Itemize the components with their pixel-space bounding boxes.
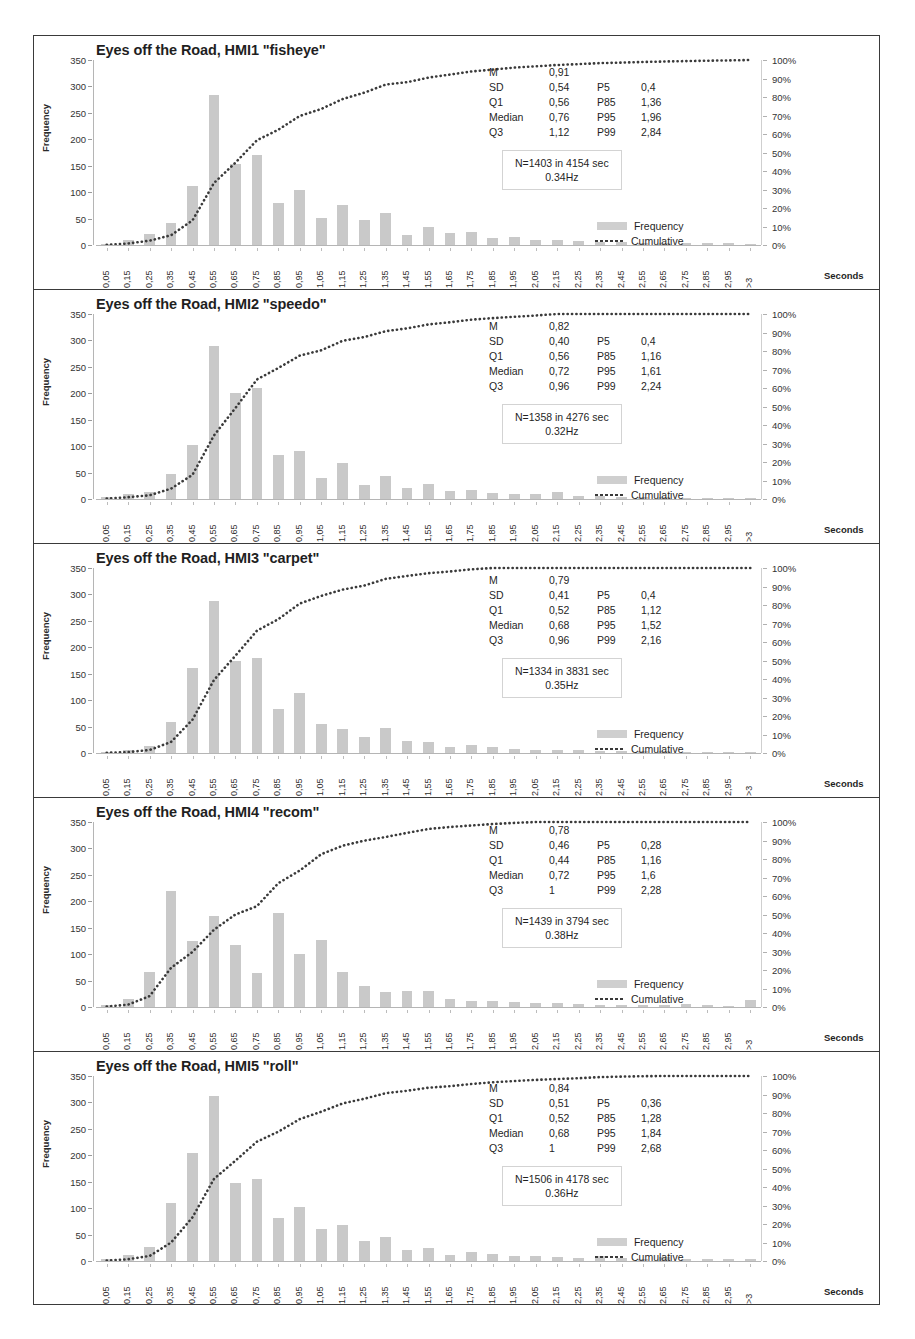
stat-label-q3: Q3 [489,126,535,138]
x-tick-label: 0,25 [144,778,154,796]
y-tick-right-label: 50% [772,1163,791,1174]
y-axis-right-line [761,60,762,245]
chart-panel-3: Eyes off the Road, HMI3 "carpet"05010015… [34,544,879,798]
y-tick-mark [88,1007,92,1008]
x-tick-mark [235,248,236,251]
stat-label-q3: Q3 [489,884,535,896]
y-tick-right-mark [763,735,767,736]
x-axis-labels: 0,050,150,250,350,450,550,650,750,850,95… [96,502,761,542]
x-tick-mark [471,1264,472,1267]
stat-label-p5: P5 [597,335,627,347]
stat-label-sd: SD [489,335,535,347]
x-tick-label: >3 [744,1294,754,1304]
y-tick-right-label: 40% [772,420,791,431]
x-tick-mark [707,1010,708,1013]
x-tick-mark [321,756,322,759]
x-tick-mark [171,1264,172,1267]
y-axis-left: 050100150200250300350 [34,314,94,499]
y-axis-title: Frequency [40,358,51,406]
x-tick-mark [579,248,580,251]
sample-size-line2: 0.35Hz [515,678,609,692]
y-tick-label: 350 [70,1071,86,1082]
x-tick-mark [278,502,279,505]
y-tick-mark [88,139,92,140]
x-tick-label: 1,75 [465,1032,475,1050]
stat-label-p95: P95 [597,111,627,123]
y-tick-label: 200 [70,134,86,145]
x-tick-label: 0,35 [165,1032,175,1050]
stats-table: M0,78SD0,46P50,28Q10,44P851,16Median0,72… [489,824,671,896]
stat-label-p5: P5 [597,839,627,851]
x-tick-mark [171,248,172,251]
x-tick-label: 0,75 [251,1032,261,1050]
y-tick-right-mark [763,933,767,934]
x-tick-label: 1,45 [401,1032,411,1050]
x-tick-mark [579,1010,580,1013]
x-tick-mark [514,756,515,759]
x-tick-mark [493,248,494,251]
x-tick-mark [407,1010,408,1013]
x-tick-label: 0,85 [272,1032,282,1050]
x-tick-label: 0,15 [122,1286,132,1304]
sample-size-line1: N=1334 in 3831 sec [515,664,609,678]
x-tick-mark [407,1264,408,1267]
x-tick-label: 0,55 [208,1286,218,1304]
x-tick-mark [321,1010,322,1013]
stat-label-sd: SD [489,589,535,601]
x-tick-mark [257,1264,258,1267]
y-tick-label: 250 [70,107,86,118]
x-tick-label: 0,15 [122,270,132,288]
stat-label-p_blank [597,320,627,332]
stat-value-q3: 0,96 [549,380,583,392]
x-tick-label: 2,25 [573,524,583,542]
x-tick-label: 2,55 [637,778,647,796]
x-tick-mark [257,756,258,759]
x-tick-mark [128,1010,129,1013]
legend-swatch-cumulative [594,995,624,1003]
stat-label-p_blank [597,1082,627,1094]
y-tick-right-mark [763,841,767,842]
x-tick-mark [214,1010,215,1013]
y-tick-mark [88,1182,92,1183]
x-tick-label: 2,15 [551,524,561,542]
x-tick-label: 1,25 [358,1286,368,1304]
x-tick-mark [128,502,129,505]
y-tick-right-label: 40% [772,1182,791,1193]
y-tick-right-label: 30% [772,946,791,957]
x-tick-mark [257,502,258,505]
y-tick-mark [88,727,92,728]
stat-value-p5: 0,4 [641,335,671,347]
y-tick-right-mark [763,333,767,334]
x-tick-label: 2,65 [658,524,668,542]
y-tick-mark [88,473,92,474]
y-tick-right-mark [763,1076,767,1077]
x-axis-labels: 0,050,150,250,350,450,550,650,750,850,95… [96,756,761,796]
x-tick-label: 0,65 [229,1032,239,1050]
x-tick-label: 2,65 [658,1032,668,1050]
y-axis-title: Frequency [40,612,51,660]
x-tick-label: 0,65 [229,270,239,288]
x-tick-label: 0,25 [144,1286,154,1304]
x-tick-mark [600,756,601,759]
legend-swatch-cumulative [594,237,624,245]
y-tick-right-mark [763,481,767,482]
x-tick-mark [750,756,751,759]
y-tick-mark [88,219,92,220]
y-tick-right-label: 40% [772,674,791,685]
x-tick-label: 0,05 [101,1286,111,1304]
x-tick-mark [643,248,644,251]
y-tick-mark [88,1076,92,1077]
x-tick-mark [729,756,730,759]
x-tick-label: 2,55 [637,270,647,288]
x-tick-label: 1,95 [508,1032,518,1050]
chart-title: Eyes off the Road, HMI3 "carpet" [96,550,319,566]
stats-grid: M0,82SD0,40P50,4Q10,56P851,16Median0,72P… [489,320,671,392]
y-tick-right-mark [763,1224,767,1225]
y-tick-right-label: 40% [772,928,791,939]
x-tick-label: 1,65 [444,1032,454,1050]
x-tick-label: 1,15 [337,1286,347,1304]
y-tick-right-label: 20% [772,457,791,468]
stat-value-q3: 1 [549,884,583,896]
x-tick-mark [386,248,387,251]
chart-panel-2: Eyes off the Road, HMI2 "speedo"05010015… [34,290,879,544]
